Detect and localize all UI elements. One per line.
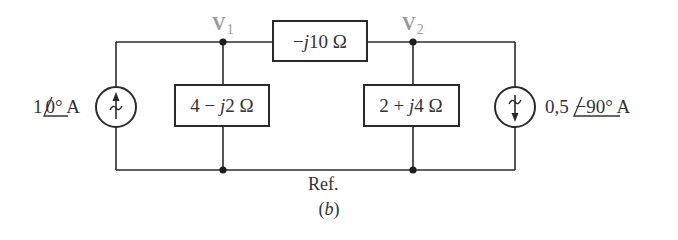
impedance-series: −j10 Ω	[273, 21, 367, 61]
node-ref-left-dot	[219, 166, 226, 173]
source-left-unit: A	[63, 96, 81, 117]
svg-text:10° A: 10° A	[33, 96, 80, 117]
current-source-right	[495, 87, 535, 127]
reference-label: Ref.	[308, 174, 339, 194]
figure-caption: (b)	[319, 199, 340, 220]
source-right-magnitude: 0,5	[545, 96, 574, 117]
node-ref-right-dot	[409, 166, 416, 173]
current-source-left	[96, 87, 136, 127]
node-v2-dot	[409, 38, 416, 45]
source-left-label: 10° A	[33, 96, 80, 117]
node-v1-dot	[219, 38, 226, 45]
impedance-right: 2 + j4 Ω	[364, 85, 459, 126]
impedance-right-label: 2 + j4 Ω	[379, 95, 442, 116]
circuit-diagram: V1 V2 −j10 Ω 4 − j2 Ω 2 + j4 Ω 10° A	[0, 0, 678, 240]
source-right-unit: A	[613, 96, 631, 117]
impedance-left-label: 4 − j2 Ω	[190, 95, 253, 116]
impedance-series-label: −j10 Ω	[293, 31, 347, 52]
node-v2-label: V2	[402, 13, 424, 37]
source-left-magnitude: 1	[33, 96, 43, 117]
source-right-label: 0,5 −90° A	[545, 96, 631, 117]
node-v1-label: V1	[212, 13, 234, 37]
svg-text:0,5 −90° A: 0,5 −90° A	[545, 96, 631, 117]
impedance-left: 4 − j2 Ω	[175, 85, 269, 126]
